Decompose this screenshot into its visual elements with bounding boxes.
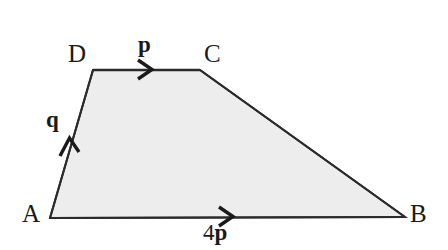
vector-label-4p: 4p [203, 221, 227, 244]
edge-AB [50, 217, 405, 218]
figure-canvas [0, 0, 448, 250]
vertex-label-a: A [22, 201, 40, 226]
vertex-label-b: B [410, 201, 427, 226]
vector-4p-coefficient: 4 [203, 220, 215, 245]
trapezium-shape [50, 70, 405, 218]
vertex-label-c: C [204, 41, 221, 66]
vector-label-q: q [46, 108, 59, 131]
vector-diagram-figure: A B C D p q 4p [0, 0, 448, 250]
vertex-label-d: D [68, 41, 86, 66]
vector-4p-symbol: p [215, 220, 228, 245]
vector-label-p: p [138, 33, 151, 56]
